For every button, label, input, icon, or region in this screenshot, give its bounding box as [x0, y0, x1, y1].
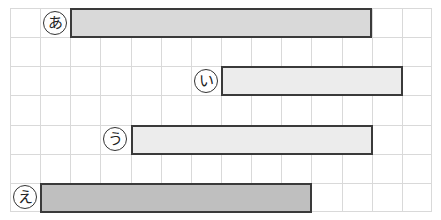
bar-label-circle: え [13, 185, 37, 209]
grid-vertical-line [402, 8, 403, 212]
grid-vertical-line [70, 8, 71, 212]
grid-vertical-line [191, 8, 192, 212]
grid-vertical-line [342, 8, 343, 212]
grid-vertical-line [251, 8, 252, 212]
bar-label-circle: あ [43, 11, 67, 35]
bar-1 [70, 8, 372, 38]
bar-3 [131, 125, 373, 155]
grid-vertical-line [161, 8, 162, 212]
grid-vertical-line [431, 8, 432, 212]
bar-4 [40, 183, 312, 213]
grid-vertical-line [131, 8, 132, 212]
grid-vertical-line [10, 8, 11, 212]
grid-vertical-line [281, 8, 282, 212]
bar-label-circle: う [103, 127, 127, 151]
bar-2 [221, 66, 403, 96]
grid [10, 8, 432, 212]
grid-vertical-line [221, 8, 222, 212]
bar-label-circle: い [194, 69, 218, 93]
grid-vertical-line [100, 8, 101, 212]
grid-vertical-line [40, 8, 41, 212]
grid-vertical-line [372, 8, 373, 212]
grid-vertical-line [311, 8, 312, 212]
